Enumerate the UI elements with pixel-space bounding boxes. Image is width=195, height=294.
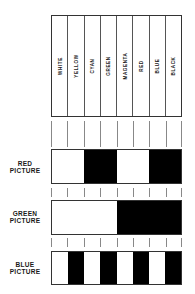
label-line: RED: [0, 160, 50, 167]
tick-marks-3: [51, 238, 182, 247]
column-label: GREEN: [106, 56, 111, 75]
tick-marks-1: [51, 121, 182, 147]
column-cyan: CYAN: [85, 16, 101, 116]
bar-segment-yellow: [68, 150, 84, 183]
column-label: BLACK: [171, 56, 176, 75]
bar-segment-magenta: [117, 252, 133, 284]
bar-segment-black: [165, 150, 181, 183]
red-picture-bar: [51, 149, 182, 184]
label-line: PICTURE: [0, 167, 50, 174]
column-black: BLACK: [166, 16, 181, 116]
bar-segment-red: [133, 252, 149, 284]
bar-segment-black: [165, 252, 181, 284]
bar-segment-magenta: [117, 150, 133, 183]
bar-segment-white: [52, 201, 68, 234]
bar-segment-magenta: [117, 201, 133, 234]
column-yellow: YELLOW: [68, 16, 84, 116]
blue-picture-label: BLUE PICTURE: [0, 261, 50, 275]
red-picture-label: RED PICTURE: [0, 160, 50, 174]
column-label: RED: [138, 60, 143, 72]
bar-segment-yellow: [68, 201, 84, 234]
column-label: CYAN: [90, 59, 95, 74]
column-green: GREEN: [101, 16, 117, 116]
label-line: PICTURE: [0, 217, 50, 224]
bar-segment-green: [100, 201, 116, 234]
bar-segment-yellow: [68, 252, 84, 284]
column-label: YELLOW: [73, 54, 78, 77]
column-red: RED: [133, 16, 149, 116]
label-line: GREEN: [0, 210, 50, 217]
bar-segment-cyan: [84, 201, 100, 234]
bar-segment-blue: [149, 252, 165, 284]
bar-segment-green: [100, 252, 116, 284]
green-picture-label: GREEN PICTURE: [0, 210, 50, 224]
column-white: WHITE: [52, 16, 68, 116]
bar-segment-cyan: [84, 252, 100, 284]
bar-segment-white: [52, 252, 68, 284]
bar-segment-cyan: [84, 150, 100, 183]
bar-segment-blue: [149, 201, 165, 234]
green-picture-bar: [51, 200, 182, 235]
bar-segment-blue: [149, 150, 165, 183]
label-line: PICTURE: [0, 268, 50, 275]
column-blue: BLUE: [150, 16, 166, 116]
blue-picture-bar: [51, 251, 182, 285]
column-label: MAGENTA: [122, 52, 127, 79]
bar-segment-green: [100, 150, 116, 183]
label-line: BLUE: [0, 261, 50, 268]
column-magenta: MAGENTA: [117, 16, 133, 116]
bar-segment-red: [133, 201, 149, 234]
tick-marks-2: [51, 188, 182, 197]
column-label: BLUE: [155, 59, 160, 74]
color-bar-header: WHITE YELLOW CYAN GREEN MAGENTA RED BLUE…: [51, 15, 182, 117]
bar-segment-red: [133, 150, 149, 183]
bar-segment-black: [165, 201, 181, 234]
bar-segment-white: [52, 150, 68, 183]
column-label: WHITE: [57, 57, 62, 75]
